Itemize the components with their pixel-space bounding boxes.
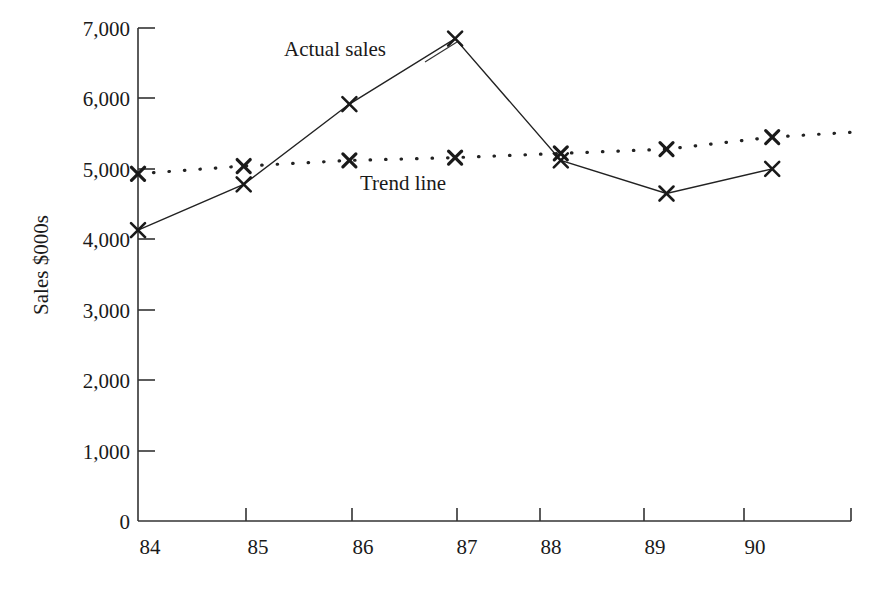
y-tick-label-0: 0 — [120, 510, 131, 534]
x-tick-label-85: 85 — [248, 535, 269, 559]
y-tick-label-6000: 6,000 — [83, 87, 130, 111]
y-tick-label-5000: 5,000 — [83, 158, 130, 182]
y-axis-ticks — [138, 28, 155, 451]
axis-lines — [138, 28, 851, 521]
y-axis-title: Sales $000s — [29, 215, 53, 315]
x-tick-label-84: 84 — [140, 535, 162, 559]
y-tick-label-2000: 2,000 — [83, 369, 130, 393]
y-tick-label-1000: 1,000 — [83, 440, 130, 464]
x-axis-ticks — [246, 508, 851, 521]
actual-point-marker — [342, 97, 356, 111]
trend-point-marker — [766, 131, 779, 144]
series-trend-line — [132, 131, 852, 181]
y-tick-label-7000: 7,000 — [83, 17, 130, 41]
chart-canvas: 7,000 6,000 5,000 4,000 3,000 2,000 1,00… — [0, 0, 896, 589]
actual-point-marker — [660, 187, 674, 201]
trend-line-label: Trend line — [360, 171, 446, 195]
y-axis-tick-labels: 7,000 6,000 5,000 4,000 3,000 2,000 1,00… — [83, 17, 130, 534]
trend-point-marker — [449, 151, 462, 164]
y-tick-label-4000: 4,000 — [83, 228, 130, 252]
actual-sales-path — [138, 39, 772, 231]
trend-point-marker — [660, 143, 673, 156]
actual-sales-leader-line — [425, 42, 457, 62]
actual-sales-label: Actual sales — [284, 37, 386, 61]
x-axis-tick-labels: 84 85 86 87 88 89 90 — [140, 535, 766, 559]
actual-point-marker — [237, 177, 251, 191]
x-tick-label-87: 87 — [457, 535, 478, 559]
x-tick-label-89: 89 — [645, 535, 666, 559]
y-tick-label-3000: 3,000 — [83, 299, 130, 323]
series-actual-sales — [131, 32, 779, 238]
x-tick-label-88: 88 — [541, 535, 562, 559]
x-tick-label-86: 86 — [353, 535, 374, 559]
line-chart-figure: 7,000 6,000 5,000 4,000 3,000 2,000 1,00… — [0, 0, 896, 589]
x-tick-label-90: 90 — [745, 535, 766, 559]
actual-point-marker — [765, 162, 779, 176]
